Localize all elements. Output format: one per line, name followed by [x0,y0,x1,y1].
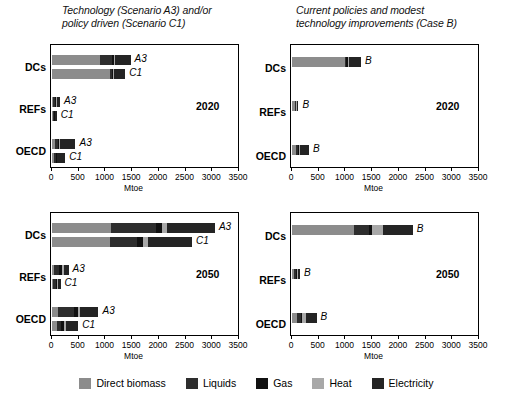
x-axis-tick-label: 1500 [122,172,141,182]
legend-swatch-gas [256,378,268,389]
bar-refs-c1 [52,111,57,121]
bar-segment-direct-biomass [52,223,111,233]
panel-title-top-left: Technology (Scenario A3) and/or policy d… [62,4,242,29]
region-label-refs: REFs [12,103,46,115]
bar-segment-electricity [57,153,65,163]
x-axis-tick-label: 1500 [122,340,141,350]
bar-dcs-b [292,57,361,67]
legend-label: Heat [329,377,351,389]
bar-oecd-b [292,145,309,155]
x-axis-tick [371,168,372,171]
bar-segment-liquids [100,55,112,65]
bar-scenario-label: B [304,267,311,278]
bar-scenario-label: B [313,143,320,154]
bar-segment-electricity [298,269,300,279]
x-axis-tick [398,336,399,339]
x-axis-tick [451,336,452,339]
bar-oecd-b [292,313,317,323]
x-axis-tick-label: 3000 [442,340,461,350]
bar-scenario-label: B [302,99,309,110]
bar-segment-electricity [64,265,69,275]
bar-scenario-label: B [365,55,372,66]
legend: Direct biomassLiquidsGasHeatElectricity [0,372,513,394]
x-axis-tick [51,168,52,171]
bar-segment-electricity [58,279,60,289]
x-axis-tick [344,336,345,339]
x-axis-tick [131,336,132,339]
bar-segment-electricity [80,307,98,317]
x-axis-tick [291,336,292,339]
bar-refs-b [292,269,300,279]
bar-segment-electricity [57,97,60,107]
region-label-oecd: OECD [12,145,46,157]
bar-segment-electricity [306,313,317,323]
x-axis-tick [185,336,186,339]
x-axis-tick-label: 3500 [229,340,248,350]
x-axis-tick-label: 0 [49,340,54,350]
x-axis-tick-label: 3000 [202,172,221,182]
bar-oecd-c1 [52,321,78,331]
bar-segment-electricity [66,321,78,331]
bar-segment-direct-biomass [292,225,354,235]
x-axis-title: Mtoe [364,183,383,193]
legend-item-direct-biomass: Direct biomass [79,377,165,389]
region-label-refs: REFs [252,274,286,286]
bar-segment-direct-biomass [292,57,345,67]
legend-item-electricity: Electricity [372,377,434,389]
x-axis-tick [371,336,372,339]
legend-label: Gas [273,377,292,389]
x-axis-tick-label: 0 [289,172,294,182]
bar-scenario-label: A3 [64,95,76,106]
legend-label: Electricity [389,377,434,389]
bar-scenario-label: B [417,223,424,234]
bar-scenario-label: C1 [65,277,78,288]
x-axis-tick-label: 500 [311,340,325,350]
bar-segment-electricity [114,69,125,79]
x-axis-tick-label: 1000 [335,340,354,350]
bar-scenario-label: A3 [219,221,231,232]
bar-scenario-label: A3 [80,137,92,148]
bar-segment-electricity [297,101,299,111]
x-axis-tick-label: 2000 [388,172,407,182]
bar-scenario-label: C1 [129,67,142,78]
x-axis-tick-label: 2500 [415,172,434,182]
x-axis-tick-label: 0 [289,340,294,350]
x-axis-tick [478,336,479,339]
bar-oecd-c1 [52,153,65,163]
x-axis-tick [398,168,399,171]
bar-scenario-label: B [321,311,328,322]
bar-refs-a3 [52,265,69,275]
x-axis-tick [291,168,292,171]
x-axis-tick-label: 3000 [202,340,221,350]
x-axis-tick-label: 3500 [469,340,488,350]
x-axis-title: Mtoe [124,183,143,193]
x-axis-tick-label: 0 [49,172,54,182]
bar-oecd-a3 [52,307,98,317]
bar-refs-c1 [52,279,61,289]
year-label-2020-right: 2020 [436,100,459,112]
year-label-2050-right: 2050 [436,268,459,280]
x-axis-tick [344,168,345,171]
bar-segment-direct-biomass [52,69,110,79]
bar-segment-direct-biomass [52,237,110,247]
region-label-dcs: DCs [252,62,286,74]
x-axis-tick [425,336,426,339]
x-axis-tick [158,336,159,339]
x-axis-tick-label: 2500 [175,172,194,182]
x-axis-tick-label: 2500 [415,340,434,350]
x-axis-tick-label: 2500 [175,340,194,350]
x-axis-tick-label: 500 [71,340,85,350]
region-label-refs: REFs [12,271,46,283]
panel-title-top-right: Current policies and modest technology i… [296,4,496,29]
region-label-dcs: DCs [252,230,286,242]
x-axis-tick [211,336,212,339]
energy-use-figure: Technology (Scenario A3) and/or policy d… [0,0,513,418]
bar-segment-heat [372,225,383,235]
region-label-oecd: OECD [12,313,46,325]
x-axis-tick [425,168,426,171]
bar-segment-electricity [349,57,361,67]
bar-scenario-label: C1 [69,151,82,162]
x-axis-tick [211,168,212,171]
x-axis-tick [104,336,105,339]
bar-dcs-a3 [52,55,131,65]
